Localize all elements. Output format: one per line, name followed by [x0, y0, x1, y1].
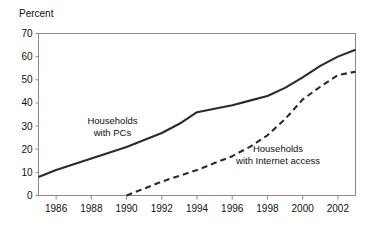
series-annotation-label: with PCs: [93, 127, 132, 138]
series-annotation-label: with Internet access: [235, 155, 320, 166]
x-tick-label: 1986: [45, 203, 68, 214]
y-tick-label: 50: [21, 74, 33, 85]
x-tick-label: 1992: [151, 203, 174, 214]
x-tick-label: 1990: [115, 203, 138, 214]
chart-container: Percent 010203040506070 1986198819901992…: [0, 0, 371, 227]
line-chart-plot: 010203040506070 198619881990199219941996…: [0, 0, 371, 227]
y-tick-label: 0: [27, 190, 33, 201]
y-tick-label: 60: [21, 51, 33, 62]
series-annotation-label: Households: [87, 115, 137, 126]
y-tick-label: 40: [21, 97, 33, 108]
x-tick-label: 1994: [186, 203, 209, 214]
x-tick-label: 2002: [327, 203, 350, 214]
x-tick-label: 1998: [256, 203, 279, 214]
plot-frame: [39, 34, 356, 196]
y-tick-label: 20: [21, 144, 33, 155]
x-axis-ticks: 198619881990199219941996199820002002: [45, 196, 349, 214]
y-tick-label: 70: [21, 28, 33, 39]
y-tick-label: 30: [21, 121, 33, 132]
series-annotation-label: Households: [253, 143, 303, 154]
y-tick-label: 10: [21, 167, 33, 178]
x-tick-label: 1996: [221, 203, 244, 214]
x-tick-label: 2000: [292, 203, 315, 214]
y-axis-ticks: 010203040506070: [21, 28, 38, 201]
x-tick-label: 1988: [80, 203, 103, 214]
